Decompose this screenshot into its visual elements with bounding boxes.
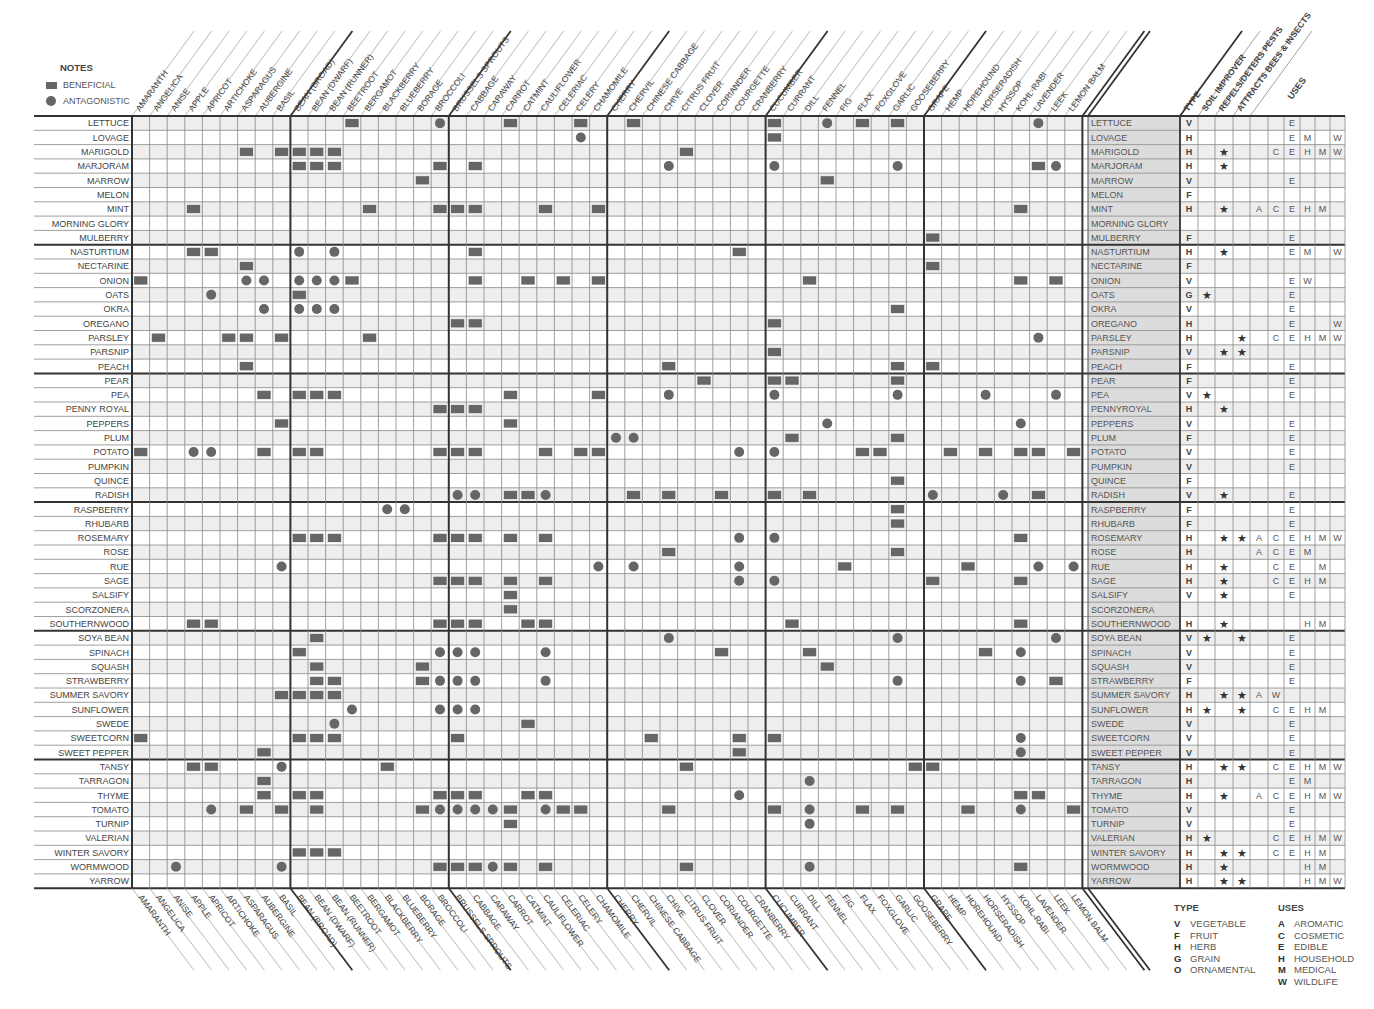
row-label: ROSE [103,547,129,557]
beneficial-marker [662,362,676,371]
row-label: SOYA BEAN [78,633,129,643]
svg-text:E: E [1289,805,1295,815]
svg-text:ROSE: ROSE [1091,547,1117,557]
svg-text:NASTURTIUM: NASTURTIUM [1091,247,1150,257]
row-label: SCORZONERA [65,605,129,615]
antagonistic-marker [470,490,480,500]
beneficial-marker [187,762,201,771]
svg-text:H: H [1304,833,1311,843]
beneficial-marker [468,276,482,285]
svg-text:M: M [1319,147,1327,157]
beneficial-marker [662,490,676,499]
legend-beneficial-label: BENEFICIAL [63,80,116,90]
svg-text:W: W [1333,333,1342,343]
svg-text:OATS: OATS [1091,290,1115,300]
antagonistic-marker [611,433,621,443]
beneficial-marker [891,505,905,514]
beneficial-marker [257,776,271,785]
svg-text:H: H [1186,247,1193,257]
svg-text:WINTER SAVORY: WINTER SAVORY [1091,848,1166,858]
svg-text:★: ★ [1202,389,1212,401]
beneficial-marker [891,362,905,371]
row-label: SQUASH [91,662,129,672]
antagonistic-marker [329,304,339,314]
row-label: OREGANO [83,319,129,329]
svg-text:WORMWOOD: WORMWOOD [1091,862,1150,872]
beneficial-marker [627,119,641,128]
svg-text:E: E [1289,676,1295,686]
antagonistic-marker [822,418,832,428]
svg-text:F: F [1186,676,1192,686]
antagonistic-marker [769,533,779,543]
antagonistic-marker [171,862,181,872]
beneficial-marker [433,862,447,871]
svg-text:E: E [1289,633,1295,643]
beneficial-marker [134,276,148,285]
beneficial-marker [503,819,517,828]
beneficial-marker [891,376,905,385]
row-label: SOUTHERNWOOD [50,619,130,629]
beneficial-marker [187,619,201,628]
antagonistic-marker [329,275,339,285]
svg-text:H: H [1304,204,1311,214]
beneficial-marker [943,448,957,457]
beneficial-marker [292,648,306,657]
antagonistic-marker [1069,561,1079,571]
beneficial-marker [1031,490,1045,499]
svg-text:MINT: MINT [1091,204,1113,214]
svg-text:E: E [1289,419,1295,429]
svg-text:E: E [1289,505,1295,515]
svg-text:E: E [1289,590,1295,600]
antagonistic-marker [488,862,498,872]
beneficial-marker [891,805,905,814]
beneficial-marker [257,791,271,800]
beneficial-marker [767,734,781,743]
beneficial-marker [662,548,676,557]
beneficial-marker [855,805,869,814]
svg-text:PEAR: PEAR [1091,376,1116,386]
beneficial-marker [468,448,482,457]
svg-text:OKRA: OKRA [1091,304,1117,314]
row-label: QUINCE [94,476,129,486]
antagonistic-marker [1033,333,1043,343]
antagonistic-marker [453,490,463,500]
legend-beneficial: BENEFICIAL [46,77,130,93]
beneficial-marker [627,490,641,499]
antagonistic-marker [769,161,779,171]
svg-text:MULBERRY: MULBERRY [1091,233,1141,243]
svg-text:H: H [1186,619,1193,629]
antagonistic-marker [453,805,463,815]
svg-text:TANSY: TANSY [1091,762,1120,772]
svg-text:H: H [1304,762,1311,772]
svg-text:H: H [1304,576,1311,586]
beneficial-marker [891,305,905,314]
svg-text:★: ★ [1202,632,1212,644]
beneficial-marker [679,862,693,871]
antagonistic-marker [347,704,357,714]
svg-text:★: ★ [1219,489,1229,501]
svg-text:W: W [1303,276,1312,286]
uses-key-title: USES [1278,902,1354,913]
svg-text:★: ★ [1237,689,1247,701]
beneficial-marker [873,448,887,457]
antagonistic-marker [435,704,445,714]
antagonistic-marker [734,790,744,800]
beneficial-marker [433,448,447,457]
beneficial-marker [380,762,394,771]
beneficial-marker [767,490,781,499]
antagonistic-marker [453,704,463,714]
beneficial-marker [292,290,306,299]
beneficial-marker [275,147,289,156]
antagonistic-marker [294,247,304,257]
row-label: PEA [111,390,129,400]
beneficial-marker [468,533,482,542]
antagonistic-marker [206,805,216,815]
beneficial-marker [468,405,482,414]
beneficial-marker [556,805,570,814]
antagonistic-marker [294,275,304,285]
svg-text:E: E [1289,576,1295,586]
beneficial-marker [134,734,148,743]
svg-text:★: ★ [1202,832,1212,844]
antagonistic-marker [435,118,445,128]
uses-key-item-medical: MMEDICAL [1278,964,1354,976]
